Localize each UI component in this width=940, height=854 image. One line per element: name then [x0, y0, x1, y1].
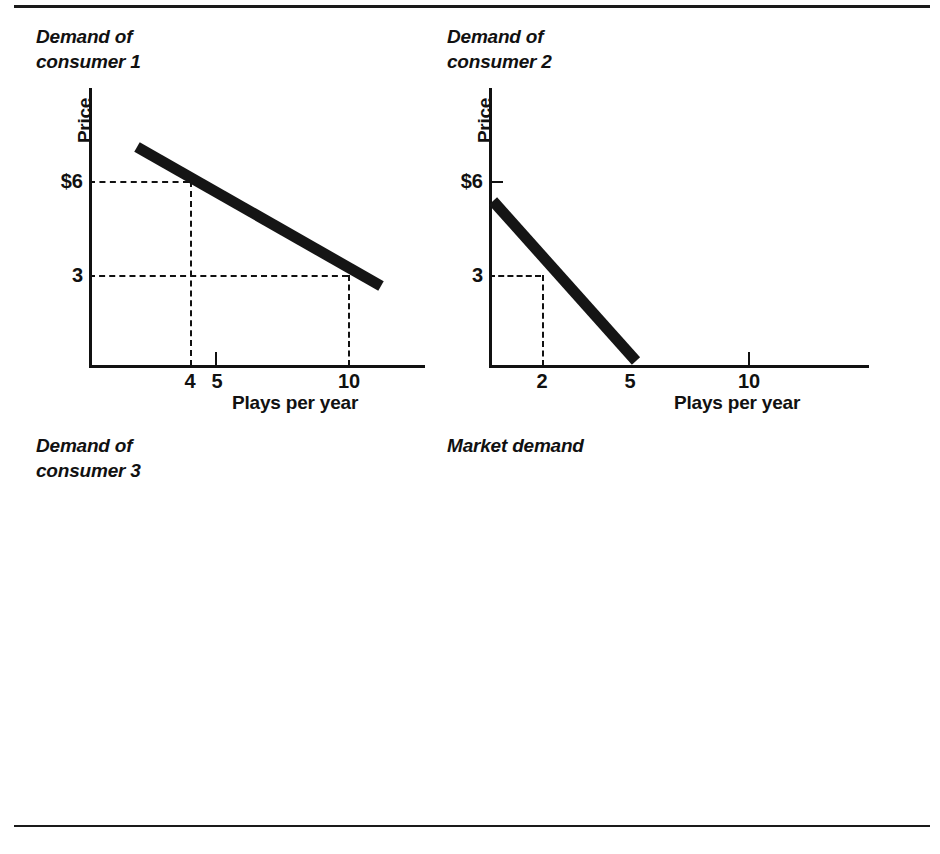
panel-demand-consumer-3: Demand of consumer 3 Price Plays per yea…: [0, 425, 470, 825]
panel-market-demand: Market demand Price Plays per year $6 3 …: [430, 425, 940, 825]
demand-curve-consumer-2: [430, 0, 940, 425]
plot-area: Price Plays per year $6 3 2 5 10: [430, 0, 940, 425]
plot-area: Price Plays per year $6 3 9 15 23 30: [430, 425, 940, 825]
panel-demand-consumer-2: Demand of consumer 2 Price Plays per yea…: [430, 0, 940, 425]
plot-area: Price Plays per year $6 3 4 5 10: [0, 0, 470, 425]
demand-curves-figure: Demand of consumer 1 Price Plays per yea…: [0, 0, 940, 854]
panel-demand-consumer-1: Demand of consumer 1 Price Plays per yea…: [0, 0, 470, 425]
plot-area: Price Plays per year $6 3 5 10 11: [0, 425, 470, 825]
demand-curve-market: [430, 425, 940, 854]
demand-curve-consumer-1: [0, 0, 470, 425]
demand-curve-consumer-3: [0, 425, 470, 854]
